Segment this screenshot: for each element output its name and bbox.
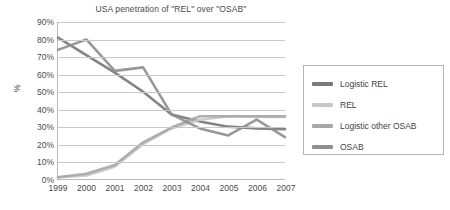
legend-label: Logistic REL xyxy=(340,79,388,89)
legend-item[interactable]: OSAB xyxy=(304,136,443,157)
plot-area: 0%10%20%30%40%50%60%70%80%90%19992000200… xyxy=(57,22,285,180)
y-axis-title: % xyxy=(12,84,22,92)
y-axis-tick-label: 60% xyxy=(37,70,54,80)
y-axis-tick-label: 30% xyxy=(37,122,54,132)
gridline xyxy=(58,75,285,76)
gridline xyxy=(58,57,285,58)
y-axis-tick-label: 50% xyxy=(37,87,54,97)
series-line xyxy=(58,116,285,177)
x-axis-tick-label: 1999 xyxy=(49,183,68,193)
gridline xyxy=(58,92,285,93)
series-line xyxy=(58,116,285,177)
legend-item[interactable]: Logistic REL xyxy=(304,73,443,94)
x-axis-tick-label: 2006 xyxy=(248,183,267,193)
legend-color-swatch xyxy=(312,103,333,107)
x-axis-tick-label: 2000 xyxy=(77,183,96,193)
gridline xyxy=(58,127,285,128)
x-axis-tick-label: 2007 xyxy=(277,183,296,193)
gridline xyxy=(58,40,285,41)
x-axis-tick-label: 2002 xyxy=(134,183,153,193)
y-axis-tick-label: 20% xyxy=(37,140,54,150)
gridline xyxy=(58,22,285,23)
legend-color-swatch xyxy=(312,124,333,128)
series-layer xyxy=(58,22,285,179)
chart-title: USA penetration of "REL" over "OSAB" xyxy=(57,4,285,14)
x-axis-tick-label: 2001 xyxy=(106,183,125,193)
y-axis-tick-label: 80% xyxy=(37,35,54,45)
gridline xyxy=(58,145,285,146)
gridline xyxy=(58,110,285,111)
series-line xyxy=(58,39,285,137)
legend-label: Logistic other OSAB xyxy=(340,121,417,131)
x-axis-tick-label: 2004 xyxy=(191,183,210,193)
legend-color-swatch xyxy=(312,145,333,149)
legend-label: REL xyxy=(340,100,357,110)
x-axis-tick-label: 2003 xyxy=(163,183,182,193)
line-chart: USA penetration of "REL" over "OSAB" % 0… xyxy=(0,0,450,210)
y-axis-tick-label: 90% xyxy=(37,17,54,27)
gridline xyxy=(58,162,285,163)
legend-label: OSAB xyxy=(340,142,364,152)
x-axis-tick-label: 2005 xyxy=(220,183,239,193)
legend-color-swatch xyxy=(312,82,333,86)
legend-item[interactable]: REL xyxy=(304,94,443,115)
legend-item[interactable]: Logistic other OSAB xyxy=(304,115,443,136)
chart-legend: Logistic RELRELLogistic other OSABOSAB xyxy=(303,65,444,155)
y-axis-tick-label: 40% xyxy=(37,105,54,115)
y-axis-tick-label: 10% xyxy=(37,157,54,167)
y-axis-tick-label: 70% xyxy=(37,52,54,62)
